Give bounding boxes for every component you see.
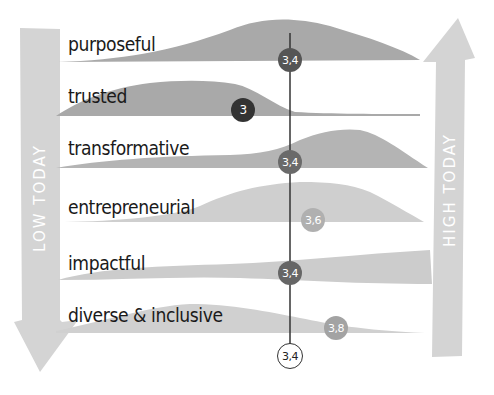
row-label-trusted: trusted (68, 86, 127, 106)
score-badge-transformative: 3,4 (278, 150, 302, 174)
score-badge-purposeful: 3,4 (278, 48, 302, 72)
score-badge-trusted: 3 (231, 98, 255, 122)
brand-perception-diagram: LOW TODAY HIGH TODAY purposeful trusted … (0, 0, 494, 395)
row-label-purposeful: purposeful (68, 34, 155, 54)
high-today-label: HIGH TODAY (441, 133, 459, 247)
overall-score-badge: 3,4 (277, 343, 303, 369)
score-badge-entrepreneurial: 3,6 (301, 208, 325, 232)
score-badge-diverse-inclusive: 3,8 (324, 316, 348, 340)
low-today-label: LOW TODAY (31, 144, 49, 252)
row-label-diverse-inclusive: diverse & inclusive (68, 305, 223, 325)
row-label-impactful: impactful (68, 253, 145, 273)
row-label-transformative: transformative (68, 138, 189, 158)
row-label-entrepreneurial: entrepreneurial (68, 197, 195, 217)
score-badge-impactful: 3,4 (278, 261, 302, 285)
